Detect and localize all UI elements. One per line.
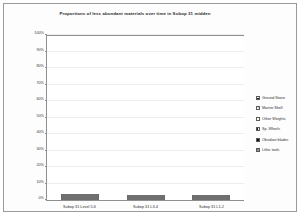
gridline xyxy=(47,150,244,151)
y-tick-mark xyxy=(45,150,47,151)
chart-frame: Proportions of less abundant materials o… xyxy=(3,3,297,212)
legend-item-label: Lithic tools xyxy=(262,148,279,152)
stacked-bar[interactable] xyxy=(61,194,99,200)
legend-item[interactable]: Lithic tools xyxy=(256,148,302,152)
y-tick-mark xyxy=(45,100,47,101)
x-axis-label: Subop 31 L1-2 xyxy=(199,205,224,209)
legend-item-label: Sp. Whorls xyxy=(262,127,280,131)
y-axis-label: 0% xyxy=(39,196,45,200)
gridline xyxy=(47,51,244,52)
legend-item-label: Obsidian blades xyxy=(262,138,288,142)
gridline xyxy=(47,133,244,134)
y-axis-label: 20% xyxy=(36,163,44,167)
legend-item[interactable]: Marine Shell xyxy=(256,106,302,110)
y-axis-label: 10% xyxy=(36,180,44,184)
y-tick-mark xyxy=(45,84,47,85)
bar-segment[interactable] xyxy=(128,199,164,200)
legend-item[interactable]: Ground Stone xyxy=(256,96,302,100)
y-axis-label: 50% xyxy=(36,114,44,118)
y-axis-label: 70% xyxy=(36,81,44,85)
gridline xyxy=(47,117,244,118)
y-tick-mark xyxy=(45,51,47,52)
y-axis-label: 60% xyxy=(36,97,44,101)
y-axis-label: 80% xyxy=(36,64,44,68)
y-axis-label: 90% xyxy=(36,48,44,52)
y-tick-mark xyxy=(45,166,47,167)
y-tick-mark xyxy=(45,133,47,134)
y-tick-mark xyxy=(45,67,47,68)
legend-item[interactable]: Obsidian blades xyxy=(256,138,302,142)
stacked-bar[interactable] xyxy=(127,195,165,200)
legend-item-label: Other Weights xyxy=(262,117,286,121)
legend-swatch-icon xyxy=(256,148,260,152)
y-tick-mark xyxy=(45,183,47,184)
gridline xyxy=(47,183,244,184)
y-axis-label: 30% xyxy=(36,147,44,151)
gridline xyxy=(47,166,244,167)
x-axis-label: Subop 31 Level 5-6 xyxy=(63,205,96,209)
y-axis-label: 40% xyxy=(36,130,44,134)
legend-swatch-icon xyxy=(256,106,260,110)
legend-item-label: Ground Stone xyxy=(262,96,285,100)
plot-top-rule xyxy=(47,35,244,36)
plot-area: 0%10%20%30%40%50%60%70%80%90%100% Subop … xyxy=(46,35,244,201)
gridline xyxy=(47,67,244,68)
legend-swatch-icon xyxy=(256,96,260,100)
legend-swatch-icon xyxy=(256,138,260,142)
legend: Ground StoneMarine ShellOther WeightsSp.… xyxy=(256,96,302,152)
legend-swatch-icon xyxy=(256,117,260,121)
x-axis-label: Subop 31 L3-4 xyxy=(133,205,158,209)
gridline xyxy=(47,34,244,35)
gridline xyxy=(47,84,244,85)
legend-item[interactable]: Sp. Whorls xyxy=(256,127,302,131)
legend-swatch-icon xyxy=(256,127,260,131)
legend-item[interactable]: Other Weights xyxy=(256,117,302,121)
gridline xyxy=(47,100,244,101)
y-tick-mark xyxy=(45,117,47,118)
bar-segment[interactable] xyxy=(62,199,98,200)
bar-segment[interactable] xyxy=(193,199,229,200)
y-axis-label: 100% xyxy=(34,31,44,35)
y-tick-mark xyxy=(45,34,47,35)
stacked-bar[interactable] xyxy=(192,195,230,200)
chart-title: Proportions of less abundant materials o… xyxy=(4,11,266,17)
legend-item-label: Marine Shell xyxy=(262,106,283,110)
y-tick-mark xyxy=(45,199,47,200)
